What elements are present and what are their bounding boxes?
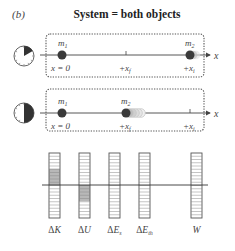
position-label-x0: x = 0 — [50, 63, 71, 73]
energy-bar-k — [49, 153, 60, 218]
object-m2 — [122, 109, 131, 118]
position-label-x0: x = 0 — [50, 121, 71, 131]
position-label-xf: +xf — [119, 121, 132, 132]
diagram-title: System = both objects — [73, 8, 181, 21]
label-m1: m1 — [58, 38, 68, 49]
axis-label-2: x — [213, 108, 219, 119]
bar-fill — [49, 169, 60, 185]
label-m2: m2 — [121, 96, 131, 107]
energy-bar-eth — [139, 153, 150, 218]
energy-bar-u — [79, 153, 90, 218]
bar-label: ΔEth — [136, 225, 153, 236]
energy-bar-es — [109, 153, 120, 218]
label-m2: m2 — [185, 38, 195, 49]
object-m2 — [186, 51, 195, 60]
tick-label-xi: +xi — [183, 121, 195, 132]
object-m1 — [58, 109, 67, 118]
tick-label-xf: +xf — [119, 63, 132, 74]
scene-2: x m1 x = 0 m2 +xf +xi — [14, 89, 219, 132]
axis-label-1: x — [213, 50, 219, 61]
bar-label: W — [193, 225, 202, 235]
energy-diagram: (b) System = both objects x m1 x = 0 — [0, 0, 235, 251]
object-m1 — [58, 51, 67, 60]
bar-label: ΔEs — [107, 225, 122, 236]
clock-half-icon — [14, 103, 34, 123]
panel-label: (b) — [12, 8, 25, 21]
clock-early-icon — [14, 46, 34, 66]
bar-label: ΔK — [48, 225, 61, 235]
bar-label: ΔU — [78, 225, 92, 235]
label-m1: m1 — [58, 96, 68, 107]
energy-bar-chart — [49, 153, 202, 218]
position-label-xi: +xi — [183, 63, 195, 74]
bar-fill — [79, 185, 90, 201]
bar-labels: ΔKΔUΔEsΔEthW — [48, 225, 201, 236]
scene-1: x m1 x = 0 m2 +xi +xf — [14, 34, 219, 77]
energy-bar-w — [191, 153, 202, 218]
